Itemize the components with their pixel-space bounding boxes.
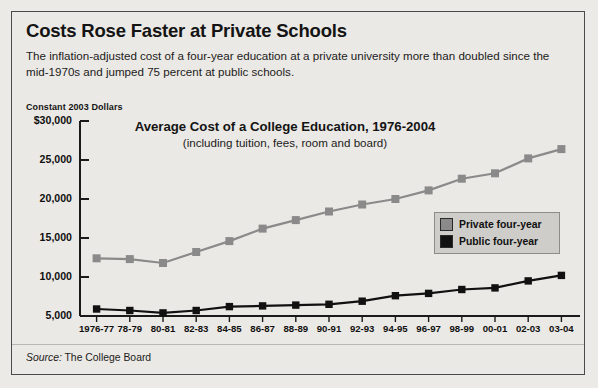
source-prefix: Source: — [26, 352, 62, 363]
y-axis-tick-label: 10,000 — [10, 270, 72, 282]
y-axis-tick-label: $30,000 — [10, 114, 72, 126]
y-axis-tick-label: 25,000 — [10, 153, 72, 165]
x-axis-tick-label: 03-04 — [538, 323, 584, 334]
chart-legend: Private four-year Public four-year — [434, 212, 560, 254]
legend-item-public: Public four-year — [440, 234, 554, 249]
legend-swatch-public — [440, 235, 453, 248]
source-text: The College Board — [62, 352, 151, 363]
legend-label-public: Public four-year — [459, 236, 538, 247]
footer-divider — [12, 344, 584, 345]
legend-item-private: Private four-year — [440, 217, 554, 232]
source-note: Source: The College Board — [26, 352, 151, 363]
legend-swatch-private — [440, 218, 453, 231]
chart-infographic: Costs Rose Faster at Private Schools The… — [0, 0, 598, 388]
legend-label-private: Private four-year — [459, 219, 542, 230]
y-axis-tick-label: 15,000 — [10, 231, 72, 243]
y-axis-tick-label: 20,000 — [10, 192, 72, 204]
y-axis-tick-label: 5,000 — [10, 309, 72, 321]
